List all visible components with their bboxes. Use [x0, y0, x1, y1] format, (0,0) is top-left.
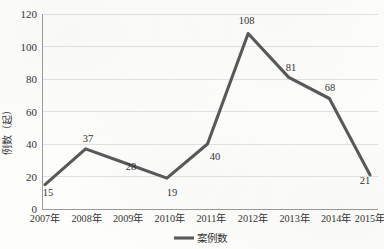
x-axis-tick-labels: 2007年 2008年 2009年 2010年 2011年 2012年 2013… [30, 212, 384, 224]
y-tick-label: 40 [26, 138, 38, 150]
series-line-case-count [45, 34, 370, 185]
data-label: 37 [83, 133, 94, 144]
data-label: 28 [126, 161, 137, 172]
data-labels: 15 37 28 19 40 108 81 68 21 [43, 15, 371, 198]
y-tick-label: 60 [26, 106, 38, 118]
data-label: 19 [167, 187, 178, 198]
data-label: 108 [239, 15, 255, 26]
y-tick-label: 20 [26, 171, 38, 183]
x-tick-label: 2013年 [279, 212, 309, 224]
x-tick-label: 2010年 [155, 212, 185, 224]
data-label: 15 [43, 187, 54, 198]
y-tick-label: 120 [21, 8, 38, 20]
data-label: 21 [360, 175, 371, 186]
data-label: 81 [286, 62, 297, 73]
x-tick-label: 2012年 [238, 212, 268, 224]
legend: 案例数 [174, 232, 228, 244]
x-tick-label: 2015年 [355, 212, 384, 224]
x-tick-label: 2007年 [30, 212, 60, 224]
chart-figure: 120 100 80 60 40 20 0 例数（起） 2007年 2008年 … [0, 0, 384, 249]
y-axis-title: 例数（起） [1, 105, 13, 155]
x-tick-label: 2014年 [321, 212, 351, 224]
x-tick-label: 2008年 [71, 212, 101, 224]
y-tick-label: 80 [26, 73, 38, 85]
y-axis-tick-labels: 120 100 80 60 40 20 0 [21, 8, 38, 215]
line-chart-canvas: 120 100 80 60 40 20 0 例数（起） 2007年 2008年 … [0, 0, 384, 249]
y-tick-label: 100 [21, 41, 38, 53]
x-tick-label: 2011年 [196, 212, 226, 224]
legend-label: 案例数 [197, 232, 228, 244]
x-tick-label: 2009年 [113, 212, 143, 224]
data-label: 40 [210, 151, 221, 162]
data-label: 68 [325, 82, 336, 93]
